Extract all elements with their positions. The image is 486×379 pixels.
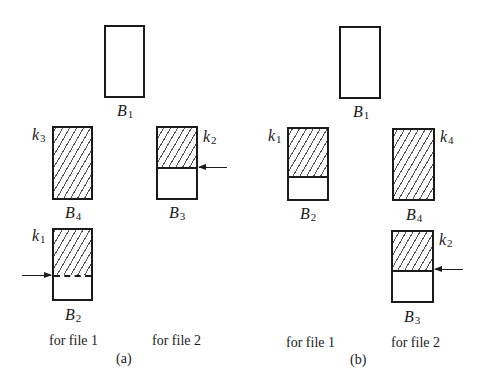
buffer-a-b3-label: B3 <box>169 204 185 222</box>
panel-caption-a: (a) <box>116 351 132 367</box>
key-a-k1: k1 <box>32 227 46 245</box>
fill-boundary <box>54 275 91 277</box>
key-a-k2: k2 <box>203 128 217 146</box>
buffer-a-b1 <box>104 25 145 98</box>
column-label-file1: for file 1 <box>49 333 98 349</box>
buffer-b-b2-label: B2 <box>300 205 316 223</box>
buffer-a-b1-label: B1 <box>117 102 133 120</box>
fill-boundary <box>158 167 196 169</box>
hatch-fill <box>289 129 327 176</box>
fill-boundary <box>393 270 432 272</box>
column-label-file2: for file 2 <box>391 335 440 351</box>
buffer-a-b3 <box>156 126 198 200</box>
column-label-file1: for file 1 <box>286 335 335 351</box>
hatch-fill <box>54 128 91 198</box>
hatch-fill <box>54 230 91 275</box>
buffer-b-b3-label: B3 <box>404 308 420 326</box>
buffer-b-b4 <box>392 128 435 201</box>
buffer-a-b2-label: B2 <box>65 306 81 324</box>
pointer-arrow-icon <box>22 275 51 276</box>
buffer-a-b2 <box>52 228 93 301</box>
key-b-k2: k2 <box>439 231 453 249</box>
key-a-k3: k3 <box>32 126 46 144</box>
buffer-a-b4-label: B4 <box>65 204 81 222</box>
panel-caption-b: (b) <box>350 352 366 368</box>
hatch-fill <box>158 128 196 167</box>
column-label-file2: for file 2 <box>152 333 201 349</box>
key-b-k4: k4 <box>440 128 454 146</box>
fill-boundary <box>289 176 327 178</box>
hatch-fill <box>393 232 432 270</box>
pointer-arrow-icon <box>199 167 227 168</box>
buffer-b-b1 <box>339 26 381 99</box>
hatch-fill <box>394 130 433 199</box>
buffer-b-b4-label: B4 <box>406 206 422 224</box>
key-b-k1: k1 <box>268 127 282 145</box>
pointer-arrow-icon <box>435 269 463 270</box>
buffer-b-b1-label: B1 <box>353 103 369 121</box>
buffer-b-b2 <box>287 127 329 201</box>
buffer-b-b3 <box>391 230 434 303</box>
buffer-a-b4 <box>52 126 93 200</box>
